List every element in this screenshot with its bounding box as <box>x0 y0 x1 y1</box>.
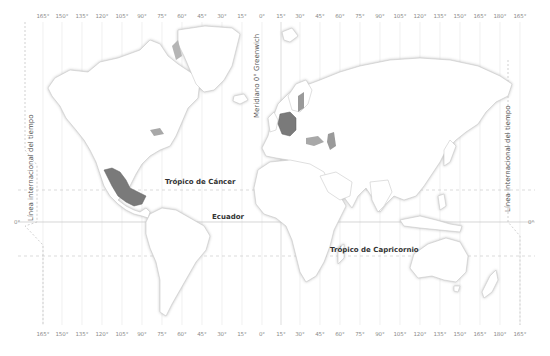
tick-bottom: 45° <box>197 331 207 337</box>
tick-bottom: 60° <box>335 331 345 337</box>
tick-top: 60° <box>177 13 187 19</box>
equator-degree-left: 0° <box>14 219 20 225</box>
tick-bottom: 90° <box>137 331 147 337</box>
tick-top: 0° <box>259 13 265 19</box>
tick-bottom: 60° <box>177 331 187 337</box>
tick-top: 150° <box>55 13 68 19</box>
tick-top: 135° <box>433 13 446 19</box>
tick-bottom: 135° <box>433 331 446 337</box>
tick-top: 120° <box>413 13 426 19</box>
svalbard <box>282 28 298 42</box>
tick-bottom: 180° <box>493 331 506 337</box>
equator-degree-right: 0° <box>528 219 534 225</box>
tick-bottom: 75° <box>157 331 167 337</box>
tick-top: 30° <box>217 13 227 19</box>
tick-bottom: 165° <box>473 331 486 337</box>
tick-top: 90° <box>375 13 385 19</box>
tropic-cancer-label: Trópico de Cáncer <box>165 178 235 186</box>
tick-top: 60° <box>335 13 345 19</box>
india <box>370 180 392 212</box>
tick-bottom: 45° <box>315 331 325 337</box>
tick-top: 75° <box>355 13 365 19</box>
tick-top: 30° <box>295 13 305 19</box>
tick-bottom: 90° <box>375 331 385 337</box>
tick-top: 75° <box>157 13 167 19</box>
philippines <box>438 194 446 210</box>
tick-top: 45° <box>197 13 207 19</box>
tick-bottom: 75° <box>355 331 365 337</box>
equator-label: Ecuador <box>212 213 244 221</box>
tick-top: 105° <box>115 13 128 19</box>
south-america <box>146 208 210 316</box>
date-line-left-label: Línea internacional del tiempo <box>27 115 35 221</box>
tick-bottom: 150° <box>55 331 68 337</box>
greenwich-label: Meridiano 0° Greenwich <box>253 34 261 118</box>
tick-top: 165° <box>36 13 49 19</box>
tick-bottom: 30° <box>295 331 305 337</box>
tick-bottom: 150° <box>453 331 466 337</box>
indonesia <box>400 216 462 232</box>
tick-bottom: 0° <box>259 331 265 337</box>
date-line-right-label: Línea internacional del tiempo <box>504 106 512 212</box>
tick-top: 105° <box>393 13 406 19</box>
australia <box>410 238 468 282</box>
world-map <box>0 0 550 356</box>
iceland <box>233 94 248 104</box>
tick-top: 90° <box>137 13 147 19</box>
tick-top: 45° <box>315 13 325 19</box>
tick-bottom: 165° <box>36 331 49 337</box>
tick-bottom: 165° <box>513 331 526 337</box>
tick-bottom: 120° <box>95 331 108 337</box>
tick-top: 165° <box>513 13 526 19</box>
tick-bottom: 105° <box>393 331 406 337</box>
tasmania <box>454 286 460 292</box>
tick-bottom: 15° <box>237 331 247 337</box>
tropic-capricorn-label: Trópico de Capricornio <box>330 246 419 254</box>
tick-bottom: 120° <box>413 331 426 337</box>
tick-top: 150° <box>453 13 466 19</box>
tick-top: 165° <box>473 13 486 19</box>
tick-bottom: 135° <box>75 331 88 337</box>
new-zealand <box>482 270 498 298</box>
tick-top: 180° <box>493 13 506 19</box>
tick-bottom: 30° <box>217 331 227 337</box>
tick-bottom: 105° <box>115 331 128 337</box>
tick-top: 15° <box>237 13 247 19</box>
tick-bottom: 15° <box>276 331 286 337</box>
tick-top: 135° <box>75 13 88 19</box>
tick-top: 15° <box>276 13 286 19</box>
tick-top: 120° <box>95 13 108 19</box>
